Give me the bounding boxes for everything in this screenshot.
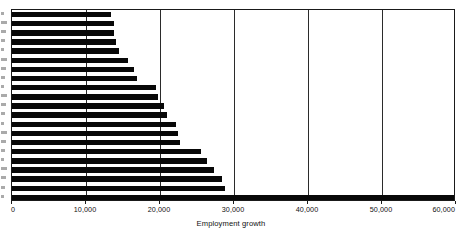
bar-row	[12, 67, 454, 72]
y-label-remnant	[1, 48, 4, 51]
bar-chart-figure: 010,00020,00030,00040,00050,00060,000 Em…	[0, 0, 462, 232]
bar	[12, 112, 167, 117]
x-tick-label-20000: 20,000	[148, 205, 171, 214]
bar-row	[12, 21, 454, 26]
y-label-remnant	[1, 58, 7, 61]
bar-row	[12, 94, 454, 99]
bar-row	[12, 122, 454, 127]
bar-row	[12, 176, 454, 181]
bar-row	[12, 76, 454, 81]
y-label-remnant	[1, 85, 4, 88]
bar-row	[12, 58, 454, 63]
y-label-remnant	[1, 30, 6, 33]
y-label-remnant	[1, 76, 5, 79]
bar	[12, 12, 111, 17]
y-label-remnant	[1, 112, 5, 115]
bar-row	[12, 85, 454, 90]
bar	[12, 176, 222, 181]
bar-row	[12, 167, 454, 172]
bar	[12, 76, 137, 81]
bar	[12, 85, 156, 90]
bar	[12, 67, 134, 72]
x-tick-50000	[381, 201, 382, 204]
bar-row	[12, 149, 454, 154]
x-tick-20000	[159, 201, 160, 204]
x-tick-40000	[307, 201, 308, 204]
y-label-remnant	[1, 167, 7, 170]
bar	[12, 48, 119, 53]
bar	[12, 21, 114, 26]
bar-row	[12, 112, 454, 117]
bar-series	[12, 10, 454, 200]
bar-row	[12, 195, 454, 200]
x-tick-label-60000: 60,000	[432, 205, 455, 214]
bar-row	[12, 30, 454, 35]
y-label-remnant	[1, 122, 4, 125]
bar-row	[12, 48, 454, 53]
bar	[12, 58, 128, 63]
bar	[12, 149, 201, 154]
y-label-remnant	[1, 195, 4, 198]
x-tick-60000	[455, 201, 456, 204]
x-tick-10000	[85, 201, 86, 204]
y-label-remnant	[1, 140, 6, 143]
bar	[12, 131, 178, 136]
y-label-remnant	[1, 12, 4, 15]
bar-row	[12, 103, 454, 108]
x-tick-label-0: 0	[11, 205, 15, 214]
plot-area	[11, 9, 455, 201]
y-label-remnant	[1, 158, 4, 161]
bar-row	[12, 186, 454, 191]
y-label-remnant	[1, 67, 6, 70]
bar	[12, 167, 214, 172]
x-tick-label-30000: 30,000	[222, 205, 245, 214]
bar	[12, 195, 454, 200]
y-axis-label-remnants	[0, 9, 8, 201]
bar	[12, 122, 176, 127]
bar	[12, 140, 180, 145]
bar-row	[12, 158, 454, 163]
y-label-remnant	[1, 131, 7, 134]
bar	[12, 94, 158, 99]
bar	[12, 186, 225, 191]
bar-row	[12, 131, 454, 136]
x-tick-30000	[233, 201, 234, 204]
bar-row	[12, 39, 454, 44]
y-label-remnant	[1, 103, 6, 106]
x-tick-label-40000: 40,000	[296, 205, 319, 214]
y-label-remnant	[1, 39, 5, 42]
y-label-remnant	[1, 186, 5, 189]
y-label-remnant	[1, 21, 7, 24]
bar-row	[12, 140, 454, 145]
x-tick-0	[11, 201, 12, 204]
y-label-remnant	[1, 176, 6, 179]
y-label-remnant	[1, 149, 5, 152]
x-tick-label-50000: 50,000	[370, 205, 393, 214]
y-label-remnant	[1, 94, 7, 97]
bar	[12, 103, 164, 108]
bar	[12, 30, 114, 35]
bar-row	[12, 12, 454, 17]
x-tick-label-10000: 10,000	[74, 205, 97, 214]
x-axis-title: Employment growth	[0, 219, 462, 228]
x-axis: 010,00020,00030,00040,00050,00060,000	[11, 201, 455, 203]
bar	[12, 158, 207, 163]
bar	[12, 39, 116, 44]
